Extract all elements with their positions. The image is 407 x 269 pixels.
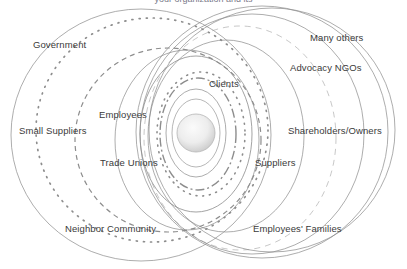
label-government: Government [33,40,86,50]
label-small-suppliers: Small Suppliers [19,126,87,136]
core-layer [177,114,215,152]
label-many-others: Many others [310,33,363,43]
label-shareholders-owners: Shareholders/Owners [288,126,382,136]
label-employees-families: Employees' Families [253,224,342,234]
label-advocacy-ngos: Advocacy NGOs [290,63,362,73]
label-suppliers: Suppliers [255,158,296,168]
organization-core-circle [177,114,215,152]
label-employees: Employees [99,110,147,120]
label-neighbor-community: Neighbor Community [65,224,156,234]
diagram-canvas: your organization and its GovernmentMany… [0,0,407,269]
label-clients: Clients [209,79,239,89]
label-trade-unions: Trade Unions [100,158,158,168]
